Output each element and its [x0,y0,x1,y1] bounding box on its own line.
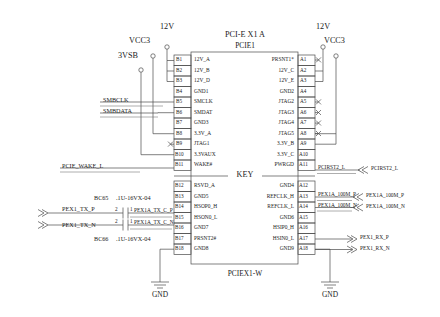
right-pin-name: GND9 [230,246,294,251]
right-pin-num: A16 [299,225,308,230]
left-pin-num: B3 [176,78,182,83]
cap-pin-num: 1 [130,207,133,212]
net-label-pcirst2-inner: PCIRST2_L [318,165,345,170]
rail-label-vcc3-left: VCC3 [112,37,150,45]
page-title: PCI-E X1 A [193,31,297,39]
right-pin-num: A14 [299,204,308,209]
left-pin-name: GND1 [194,89,208,94]
left-pin-name: SMDAT [194,110,212,115]
connector-designator: PCIE1 [193,42,297,49]
right-pin-name: PWRGD [230,162,294,167]
cap-pin-num: 1 [130,219,133,224]
right-pin-num: A11 [299,162,308,167]
rail-label-12v-left: 12V [152,23,182,31]
left-pin-name: GND5 [194,194,208,199]
net-label-pcie-wake: PCIE_WAKE_L [62,163,103,169]
left-pin-name: GND3 [194,120,208,125]
label-layer: PCI-E X1 A PCIE1 PCIEX1-W 12V VCC3 3VSB … [0,0,440,317]
cap-ref-bc66: BC66 [94,236,108,242]
left-pin-num: B5 [176,99,182,104]
right-pin-num: A3 [300,78,306,83]
right-pin-name: JTAG4 [230,120,294,125]
right-pin-num: A15 [299,215,308,220]
net-label-pcirst2-outer: PCIRST2_L [371,166,398,171]
left-pin-num: B18 [175,246,184,251]
right-pin-name: 3.3V_B [230,141,294,146]
right-pin-num: A2 [300,68,306,73]
left-pin-num: B1 [176,57,182,62]
net-label-100m-n-outer: PEX1A_100M_N [366,204,405,209]
left-pin-name: 3.3V_A [194,131,211,136]
cap-pin-num: 2 [115,207,118,212]
right-pin-num: A1 [300,57,306,62]
right-pin-num: A18 [299,246,308,251]
left-pin-name: 12V_B [194,68,210,73]
left-pin-name: PRSNT2# [194,236,216,241]
left-pin-name: WAKE# [194,162,212,167]
right-pin-num: A17 [299,236,308,241]
right-pin-num: A5 [300,99,306,104]
left-pin-name: GND7 [194,225,208,230]
left-pin-name: RSVD_A [194,183,215,188]
right-pin-num: A13 [299,194,308,199]
right-pin-name: GND2 [230,89,294,94]
right-pin-name: PRSNT1* [230,57,294,62]
cap-ref-bc65: BC65 [94,195,108,201]
cap-value-bc66: .1U-16VX-04 [116,236,151,242]
left-pin-name: HSOP0_H [194,204,217,209]
left-pin-name: 12V_A [194,57,210,62]
left-pin-num: B11 [175,162,183,167]
net-label-smbdata: SMBDATA [103,108,132,114]
left-pin-num: B7 [176,120,182,125]
left-pin-num: B9 [176,141,182,146]
right-pin-name: GND6 [230,215,294,220]
ground-label-left: GND [145,291,175,298]
net-label-100m-p-outer: PEX1A_100M_P [366,193,404,198]
right-pin-num: A6 [300,110,306,115]
net-label-100m-n-inner: PEX1A_100M_N [318,203,357,208]
net-label-100m-p-inner: PEX1A_100M_P [318,192,356,197]
left-pin-num: B6 [176,110,182,115]
right-pin-name: 3.3V_C [230,152,294,157]
right-pin-name: JTAG5 [230,131,294,136]
right-pin-name: 12V_E [230,78,294,83]
net-label-pex1-tx-n: PEX1_TX_N [62,222,96,228]
left-pin-name: GND8 [194,246,208,251]
left-pin-name: JTAG1 [194,141,209,146]
rail-label-vcc3-right: VCC3 [324,37,364,45]
left-pin-num: B10 [175,152,184,157]
right-pin-num: A8 [300,131,306,136]
right-pin-name: JTAG3 [230,110,294,115]
right-pin-name: HSIP0_H [230,225,294,230]
left-pin-name: SMCLK [194,99,213,104]
right-pin-name: REFCLK_L [230,204,294,209]
right-pin-name: REFCLK_H [230,194,294,199]
right-pin-num: A9 [300,141,306,146]
cap-pin-num: 2 [115,219,118,224]
left-pin-num: B2 [176,68,182,73]
left-pin-num: B4 [176,89,182,94]
net-label-smbclk: SMBCLK [103,97,128,103]
right-pin-num: A7 [300,120,306,125]
cap-value-bc65: .1U-16VX-04 [116,195,151,201]
left-pin-num: B15 [175,215,184,220]
net-label-pex1a-tx-c-n: PEX1A_TX_C_N [134,220,174,225]
right-pin-name: HSIN0_L [230,236,294,241]
right-pin-num: A10 [299,152,308,157]
right-pin-name: GND4 [230,183,294,188]
key-label: KEY [229,171,261,179]
net-label-pex1a-tx-c-p: PEX1A_TX_C_P [134,208,173,213]
left-pin-name: HSON0_L [194,215,217,220]
left-pin-num: B13 [175,194,184,199]
left-pin-name: 12V_D [194,78,210,83]
left-pin-num: B14 [175,204,184,209]
net-label-pex1-rx-n: PEX1_RX_N [360,246,390,251]
left-pin-num: B8 [176,131,182,136]
left-pin-name: 3.3VAUX [194,152,216,157]
connector-footer: PCIEX1-W [193,270,297,277]
right-pin-num: A4 [300,89,306,94]
right-pin-name: JTAG2 [230,99,294,104]
ground-label-right: GND [315,291,345,298]
left-pin-num: B16 [175,225,184,230]
right-pin-name: 12V_C [230,68,294,73]
